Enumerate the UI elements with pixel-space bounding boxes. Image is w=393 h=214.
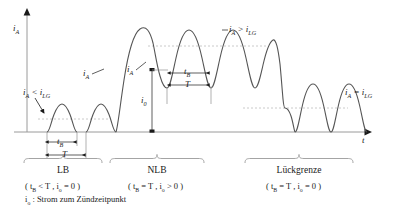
footnote-i0-definition: io : Strom zum Zündzeitpunkt	[25, 195, 126, 206]
x-axis-label: t	[362, 136, 365, 145]
nlb-dim-i0-cap-bottom	[150, 130, 155, 133]
dimension-label-nlb-T: T	[185, 80, 190, 89]
dimension-nlb	[150, 68, 212, 133]
dimension-label-nlb-i0: i0	[141, 96, 147, 107]
condition-label-boundary: iA = iLG	[345, 88, 372, 99]
brace-lueckgrenze	[245, 155, 353, 164]
waveform-lb	[47, 104, 116, 132]
nlb-hump-3-decay	[255, 40, 285, 108]
nlb-tail-to-zero	[285, 108, 295, 132]
dimension-label-lb-T: T	[62, 150, 67, 159]
region-condition-lb: ( tB < T , io = 0 )	[25, 182, 80, 193]
dimension-label-lb-tb: tB	[57, 137, 63, 148]
y-axis-arrowhead	[24, 8, 31, 16]
diagram-page: iA t iA < iLG iA iA iA > iLG iA = iLG tB…	[0, 0, 393, 214]
dimension-label-nlb-tb: tB	[184, 67, 190, 78]
condition-label-lb: iA < iLG	[23, 88, 50, 99]
region-condition-lueckgrenze: ( tB = T , io = 0 )	[266, 182, 321, 193]
curve-label-nlb: iA	[127, 65, 133, 76]
region-braces	[24, 155, 353, 164]
nlb-dim-i0-cap-top	[150, 68, 155, 71]
leader-lb-condition	[35, 98, 44, 113]
region-condition-nlb: ( tB = T , io > 0 )	[128, 182, 183, 193]
waveform-transition	[116, 28, 167, 132]
region-title-nlb: NLB	[137, 166, 177, 176]
region-title-lb: LB	[43, 166, 83, 176]
transition-rise	[116, 28, 167, 132]
region-title-lueckgrenze: Lückgrenze	[271, 166, 327, 176]
curve-label-lb: iA	[83, 69, 89, 80]
y-axis-label: iA	[13, 24, 19, 35]
lb-pulse-1	[47, 104, 77, 132]
lb-pulse-2	[86, 104, 116, 132]
condition-label-nlb: iA > iLG	[229, 25, 256, 36]
leader-curve-nlb	[136, 62, 146, 70]
axis-group	[14, 8, 372, 135]
leader-curve-lb	[92, 69, 104, 74]
brace-nlb	[110, 155, 204, 164]
nlb-hump-2	[211, 30, 255, 88]
